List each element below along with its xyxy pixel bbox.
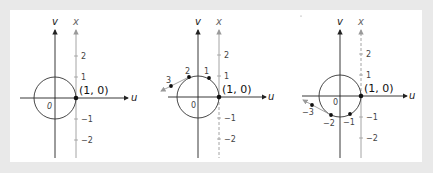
wrapped-point xyxy=(310,103,314,107)
point-1-0 xyxy=(74,96,79,101)
tick-label: 2 xyxy=(81,52,86,61)
tick-label: 2 xyxy=(366,50,371,59)
origin-label: 0 xyxy=(47,102,52,111)
wrapping-function-diagram: u v x 2 1 −1 −2 0 (1, 0) u v x xyxy=(0,0,433,173)
tick-label: −1 xyxy=(81,115,93,124)
tick-label: 1 xyxy=(224,72,229,81)
origin-label: 0 xyxy=(333,98,338,107)
tick-label: 2 xyxy=(224,51,229,60)
point-label: (1, 0) xyxy=(79,84,109,97)
v-axis-label: v xyxy=(52,16,59,27)
wrapped-point-label: 3 xyxy=(166,76,171,85)
wrapped-point xyxy=(348,112,352,116)
point-1-0 xyxy=(359,94,364,99)
u-axis-label: u xyxy=(131,92,137,103)
x-axis-label: x xyxy=(215,16,222,27)
panel-wrap-positive: u v x 2 1 −1 −2 0 1 2 3 (1, 0) xyxy=(161,16,274,158)
u-axis-label: u xyxy=(409,90,415,101)
tick-label: −1 xyxy=(224,114,236,123)
tick-label: 1 xyxy=(366,71,371,80)
stray-mark xyxy=(300,15,301,16)
wrapped-point-label: −1 xyxy=(343,118,355,127)
v-axis-label: v xyxy=(195,16,202,27)
tick-label: −2 xyxy=(224,135,236,144)
tick-label: −2 xyxy=(81,136,93,145)
origin-label: 0 xyxy=(191,101,196,110)
tick-label: −2 xyxy=(366,134,378,143)
wrapped-point-label: −3 xyxy=(302,108,314,117)
tick-label: −1 xyxy=(366,113,378,122)
u-axis-label: u xyxy=(268,91,274,102)
wrapped-point-label: 2 xyxy=(185,67,190,76)
wrapped-point xyxy=(207,76,211,80)
panel-wrap-negative: u v x 2 1 −1 −2 0 −1 −2 −3 (1, 0) xyxy=(300,15,415,158)
wrapped-point-label: 1 xyxy=(204,67,209,76)
x-axis-label: x xyxy=(357,16,364,27)
point-label: (1, 0) xyxy=(222,83,252,96)
v-axis-label: v xyxy=(337,16,344,27)
wrapped-point-label: −2 xyxy=(323,119,335,128)
tick-label: 1 xyxy=(81,73,86,82)
wrapped-point xyxy=(329,113,333,117)
x-axis-label: x xyxy=(72,16,79,27)
panel-unwrapped: u v x 2 1 −1 −2 0 (1, 0) xyxy=(20,16,137,158)
point-label: (1, 0) xyxy=(364,82,394,95)
point-1-0 xyxy=(217,95,222,100)
